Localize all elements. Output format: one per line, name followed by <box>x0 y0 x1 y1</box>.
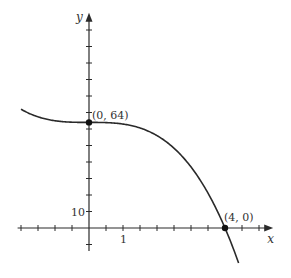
x-axis-arrow-icon <box>264 225 273 232</box>
y-axis-arrow-icon <box>86 13 93 22</box>
function-curve <box>21 109 239 263</box>
y-tick-label: 10 <box>71 206 85 219</box>
annotation-label: (0, 64) <box>92 109 129 122</box>
function-graph: 110 (0, 64)(4, 0) x y <box>0 0 291 278</box>
y-axis-label: y <box>75 10 83 24</box>
annotation-label: (4, 0) <box>224 211 254 224</box>
x-tick-label: 1 <box>120 233 127 246</box>
x-axis-label: x <box>267 232 274 246</box>
annotation-point <box>222 225 228 231</box>
